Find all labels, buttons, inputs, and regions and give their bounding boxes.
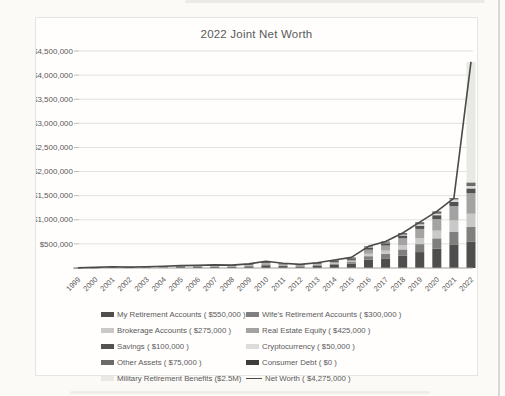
legend-line-swatch [246, 378, 262, 379]
bar-segment-military-retirement-benefits [467, 62, 476, 183]
bar-segment-brokerage-accounts [432, 231, 441, 239]
bar-segment-savings [467, 188, 476, 193]
bar-segment-brokerage-accounts [381, 251, 390, 254]
bar-segment-savings [415, 226, 424, 229]
x-tick-label: 2015 [338, 275, 356, 293]
legend-item-cryptocurrency: Cryptocurrency ( $50,000 ) [246, 343, 401, 351]
bar-segment-real-estate-equity [398, 238, 407, 245]
x-tick-label: 2012 [286, 275, 304, 293]
bar-segment-wifes-retirement-accounts [279, 265, 288, 266]
x-tick-label: 2008 [218, 275, 236, 293]
x-tick-label: 2011 [270, 275, 288, 293]
bar-segment-my-retirement-accounts [467, 241, 476, 268]
legend-item-my-retirement-accounts: My Retirement Accounts ( $550,000 ) [101, 311, 246, 319]
y-tick-label: $4,500,000 [36, 47, 74, 56]
bar-segment-wifes-retirement-accounts [313, 265, 322, 266]
bar-segment-real-estate-equity [330, 262, 339, 263]
x-tick-label: 2006 [184, 275, 202, 293]
bar-segment-my-retirement-accounts [398, 255, 407, 268]
legend-label: My Retirement Accounts ( $550,000 ) [117, 311, 246, 319]
x-tick-label: 2017 [372, 275, 390, 293]
legend-item-consumer-debt: Consumer Debt ( $0 ) [246, 359, 401, 367]
legend-swatch [101, 312, 114, 317]
y-tick-label: $2,500,000 [36, 143, 74, 152]
bar-segment-brokerage-accounts [364, 254, 373, 256]
x-tick-label: 2002 [116, 275, 134, 293]
bar-segment-brokerage-accounts [467, 214, 476, 227]
bar-segment-wifes-retirement-accounts [467, 227, 476, 241]
bar-segment-my-retirement-accounts [347, 264, 356, 268]
legend-label: Savings ( $100,000 ) [117, 343, 189, 351]
scan-artifact-bottom [70, 391, 430, 394]
legend-swatch [246, 344, 259, 349]
legend-label: Military Retirement Benefits ($2.5M) [117, 375, 241, 383]
bar-segment-wifes-retirement-accounts [432, 238, 441, 248]
legend-item-other-assets: Other Assets ( $75,000 ) [101, 359, 246, 367]
legend-swatch [101, 344, 114, 349]
x-tick-label: 2021 [440, 275, 458, 293]
x-tick-label: 2005 [167, 275, 185, 293]
x-tick-label: 2014 [321, 275, 339, 293]
legend-item-military-retirement-benefits: Military Retirement Benefits ($2.5M) [101, 375, 246, 383]
bar-segment-wifes-retirement-accounts [415, 244, 424, 252]
y-tick-label: $4,000,000 [36, 71, 74, 80]
bar-segment-my-retirement-accounts [432, 248, 441, 268]
legend-item-savings: Savings ( $100,000 ) [101, 343, 246, 351]
legend-label: Brokerage Accounts ( $275,000 ) [117, 327, 231, 335]
bar-segment-wifes-retirement-accounts [347, 262, 356, 264]
y-tick-label: $3,000,000 [36, 119, 74, 128]
bar-segment-real-estate-equity [364, 250, 373, 254]
legend-swatch [246, 360, 259, 365]
bar-segment-real-estate-equity [432, 219, 441, 231]
legend-item-net-worth: Net Worth ( $4,275,000 ) [246, 375, 401, 383]
bar-segment-wifes-retirement-accounts [330, 264, 339, 265]
bar-segment-real-estate-equity [296, 265, 305, 266]
bar-segment-wifes-retirement-accounts [398, 249, 407, 255]
scan-artifact-right-edge [498, 0, 500, 396]
bar-segment-real-estate-equity [467, 193, 476, 213]
bar-segment-real-estate-equity [347, 260, 356, 262]
bar-segment-savings [381, 243, 390, 245]
x-tick-label: 2003 [133, 275, 151, 293]
bar-segment-wifes-retirement-accounts [381, 254, 390, 259]
legend-label: Cryptocurrency ( $50,000 ) [262, 343, 355, 351]
bar-segment-real-estate-equity [244, 265, 253, 266]
x-tick-label: 2018 [389, 275, 407, 293]
y-tick-label: $2,000,000 [36, 167, 74, 176]
y-tick-label: $3,500,000 [36, 95, 74, 104]
bar-segment-brokerage-accounts [398, 245, 407, 249]
x-tick-label: 2020 [423, 275, 441, 293]
x-tick-label: 1999 [64, 275, 82, 293]
legend-swatch [246, 328, 259, 333]
chart-frame: 2022 Joint Net Worth $500,000$1,000,000$… [35, 17, 478, 376]
legend-label: Real Estate Equity ( $425,000 ) [262, 327, 370, 335]
legend-swatch [101, 360, 114, 365]
scan-artifact-top [185, 0, 485, 3]
x-tick-label: 2009 [235, 275, 253, 293]
bar-segment-real-estate-equity [415, 229, 424, 238]
bar-segment-savings [449, 202, 458, 206]
legend-item-wifes-retirement-accounts: Wife's Retirement Accounts ( $300,000 ) [246, 311, 401, 319]
bar-segment-real-estate-equity [261, 263, 270, 264]
bar-segment-wifes-retirement-accounts [449, 232, 458, 245]
x-tick-label: 2022 [457, 275, 475, 293]
legend-label: Wife's Retirement Accounts ( $300,000 ) [262, 311, 401, 319]
bar-segment-my-retirement-accounts [415, 252, 424, 268]
x-tick-label: 2016 [355, 275, 373, 293]
bar-segment-brokerage-accounts [347, 261, 356, 262]
net-worth-line [78, 62, 471, 268]
bar-segment-real-estate-equity [381, 246, 390, 251]
y-tick-label: $500,000 [40, 240, 74, 249]
bar-segment-wifes-retirement-accounts [261, 264, 270, 265]
legend-label: Net Worth ( $4,275,000 ) [265, 375, 351, 383]
bar-segment-savings [398, 235, 407, 238]
x-tick-label: 2004 [150, 275, 168, 293]
x-tick-label: 2007 [201, 275, 219, 293]
bar-segment-cryptocurrency [467, 186, 476, 188]
legend-label: Consumer Debt ( $0 ) [262, 359, 337, 367]
bar-segment-real-estate-equity [313, 264, 322, 265]
bar-segment-other-assets [467, 182, 476, 186]
y-tick-label: $1,500,000 [36, 191, 74, 200]
legend-swatch [101, 376, 114, 381]
bar-segment-my-retirement-accounts [364, 260, 373, 268]
